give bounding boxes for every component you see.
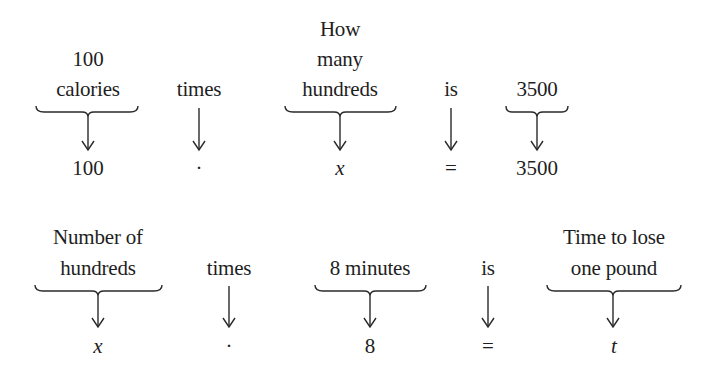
- term-label-line: calories: [28, 78, 148, 100]
- equation-symbol: ·: [159, 157, 239, 179]
- equation-symbol: 100: [28, 157, 148, 179]
- row1-term-times: times ·: [159, 0, 239, 190]
- term-label-line: is: [421, 78, 481, 100]
- row2-term-time-to-lose-one-pound: Time to lose one pound t: [538, 200, 690, 369]
- term-label-line: hundreds: [270, 78, 410, 100]
- row2-term-number-of-hundreds: Number of hundreds x: [28, 200, 168, 369]
- term-label-line: times: [189, 257, 269, 279]
- term-label-line: times: [159, 78, 239, 100]
- term-label-line: hundreds: [28, 257, 168, 279]
- term-label-line: 8 minutes: [305, 257, 435, 279]
- equation-symbol: 8: [305, 335, 435, 357]
- row2-term-8-minutes: 8 minutes 8: [305, 200, 435, 369]
- row1-term-is: is =: [421, 0, 481, 190]
- row2-term-times: times ·: [189, 200, 269, 369]
- equation-symbol: t: [538, 335, 690, 357]
- row1-term-3500: 3500 3500: [497, 0, 577, 190]
- equation-symbol: =: [421, 157, 481, 179]
- row2-term-is: is =: [458, 200, 518, 369]
- term-label-line: Number of: [28, 226, 168, 248]
- term-label-line: many: [270, 48, 410, 70]
- row1-term-how-many-hundreds: How many hundreds x: [270, 0, 410, 190]
- term-label-line: is: [458, 257, 518, 279]
- term-label-line: 3500: [497, 78, 577, 100]
- equation-symbol: 3500: [497, 157, 577, 179]
- equation-symbol: =: [458, 335, 518, 357]
- term-label-line: Time to lose: [538, 226, 690, 248]
- term-label-line: one pound: [538, 257, 690, 279]
- equation-symbol: ·: [189, 335, 269, 357]
- row1-term-100-calories: 100 calories 100: [28, 0, 148, 190]
- term-label-line: How: [270, 18, 410, 40]
- equation-symbol: x: [28, 335, 168, 357]
- term-label-line: 100: [28, 48, 148, 70]
- equation-symbol: x: [270, 157, 410, 179]
